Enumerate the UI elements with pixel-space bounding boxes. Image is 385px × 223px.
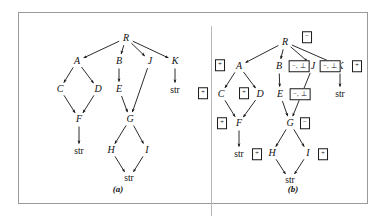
node-label-a: A [236, 61, 242, 71]
edge-A-to-C [225, 72, 235, 87]
edge-A-to-C [64, 67, 73, 82]
node-label-j: J [148, 56, 152, 66]
leaf-label-str: str [170, 86, 180, 96]
node-label-b: B [276, 61, 282, 71]
edge-C-to-F [64, 95, 75, 112]
panel-caption-b: (b) [288, 184, 299, 194]
annotation-tag-j: −, ⊥ [320, 60, 341, 72]
annotation-tag-f: + [217, 117, 227, 129]
graph-edges [19, 13, 194, 205]
edge-G-to-H [276, 129, 286, 146]
panel-b-annotated-graph: RABJKCDEFGHIstrstrstr−+−, ⊥−, ⊥+++−, ⊥+−… [194, 13, 369, 205]
node-label-g: G [126, 114, 133, 124]
edge-R-to-A [84, 41, 119, 58]
edge-R-to-B [281, 49, 283, 58]
node-label-a: A [74, 56, 80, 66]
edge-I-to-HI-str [133, 156, 143, 171]
node-label-h: H [268, 148, 275, 158]
edge-G-to-I [134, 126, 144, 144]
edge-E-to-G [122, 96, 128, 112]
edge-R-to-A [246, 45, 279, 62]
node-label-i: I [145, 145, 148, 155]
edge-C-to-F [225, 100, 235, 116]
node-label-d: D [256, 89, 263, 99]
annotation-tag-b: −, ⊥ [289, 60, 310, 72]
node-label-i: I [306, 148, 309, 158]
edge-H-to-HI-str [115, 156, 125, 171]
annotation-tag-c: + [198, 87, 208, 99]
edge-I-to-HI-str [295, 159, 304, 174]
node-label-d: D [94, 84, 101, 94]
annotation-tag-a: + [215, 59, 225, 71]
panel-caption-a: (a) [113, 184, 124, 194]
annotation-tag-d: + [239, 87, 249, 99]
annotation-tag-e: −, ⊥ [290, 88, 311, 100]
edge-H-to-HI-str [276, 159, 285, 174]
leaf-label-str: str [335, 90, 345, 100]
leaf-label-str: str [234, 150, 244, 160]
edge-J-to-G [132, 68, 147, 112]
edge-G-to-I [294, 129, 304, 146]
leaf-label-str: str [124, 174, 134, 184]
node-label-r: R [282, 37, 288, 47]
edge-A-to-D [82, 67, 94, 83]
edge-A-to-D [244, 72, 256, 88]
edge-R-to-J [131, 43, 144, 56]
edge-G-to-H [115, 125, 126, 143]
node-label-j: J [311, 61, 315, 71]
edge-D-to-F [83, 95, 94, 112]
edge-R-to-J [291, 47, 308, 61]
edge-R-to-B [121, 45, 124, 54]
node-label-f: F [76, 114, 82, 124]
node-label-k: K [172, 56, 179, 66]
leaf-label-str: str [74, 147, 84, 157]
panel-a-graph: RABJKCDEFGHIstrstrstr(a) [19, 13, 194, 205]
node-label-f: F [236, 118, 242, 128]
node-label-c: C [218, 89, 225, 99]
node-label-c: C [57, 84, 64, 94]
node-label-e: E [277, 89, 283, 99]
annotation-tag-h: + [252, 148, 262, 160]
annotation-tag-k: + [352, 60, 362, 72]
node-label-g: G [286, 118, 293, 128]
edge-E-to-G [282, 101, 287, 116]
node-label-h: H [107, 145, 114, 155]
figure-frame: RABJKCDEFGHIstrstrstr(a) RABJKCDEFGHIstr… [18, 12, 368, 204]
annotation-tag-g: − [300, 117, 310, 129]
node-label-e: E [116, 84, 122, 94]
annotation-tag-r: − [302, 31, 312, 43]
node-label-r: R [123, 33, 129, 43]
edge-D-to-F [243, 100, 255, 117]
node-label-b: B [116, 56, 122, 66]
annotation-tag-i: + [318, 148, 328, 160]
